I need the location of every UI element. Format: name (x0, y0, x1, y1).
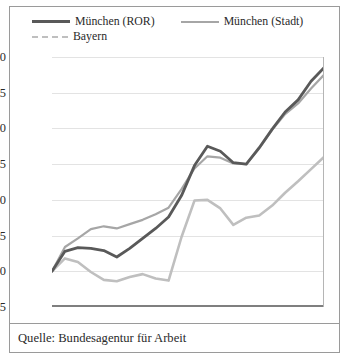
legend-label-bayern: Bayern (73, 30, 107, 43)
legend-swatch-bayern-icon (32, 36, 68, 38)
y-tick-label: 120 (0, 121, 6, 136)
figure: München (ROR) München (Stadt) Bayern 951… (9, 6, 340, 353)
y-tick-label: 125 (0, 85, 6, 100)
y-tick-label: 130 (0, 50, 6, 65)
source-note: Quelle: Bundesagentur für Arbeit (9, 324, 340, 353)
legend-item-stadt: München (Stadt) (181, 15, 304, 28)
series-line (52, 157, 324, 281)
x-axis-line (52, 305, 324, 307)
legend-label-ror: München (ROR) (75, 15, 155, 28)
series-line (52, 75, 324, 271)
chart-container: München (ROR) München (Stadt) Bayern 951… (9, 6, 340, 324)
y-tick-label: 115 (0, 157, 6, 172)
series-lines (52, 57, 324, 307)
y-tick-label: 105 (0, 228, 6, 243)
legend-swatch-ror-icon (32, 20, 70, 23)
y-tick-label: 110 (0, 192, 6, 207)
legend-label-stadt: München (Stadt) (224, 15, 304, 28)
y-tick-label: 95 (0, 300, 6, 315)
legend-item-ror: München (ROR) (32, 15, 155, 28)
right-axis-line (323, 57, 324, 307)
plot-area: 95100105110115120125130 1991199620012006… (52, 57, 324, 307)
series-line (52, 68, 324, 272)
source-text: Quelle: Bundesagentur für Arbeit (18, 331, 186, 346)
chart-legend: München (ROR) München (Stadt) Bayern (10, 7, 339, 44)
legend-swatch-stadt-icon (181, 21, 219, 23)
legend-item-bayern: Bayern (32, 30, 107, 43)
legend-row-2: Bayern (10, 29, 339, 44)
legend-row-1: München (ROR) München (Stadt) (10, 14, 339, 29)
y-tick-label: 100 (0, 264, 6, 279)
